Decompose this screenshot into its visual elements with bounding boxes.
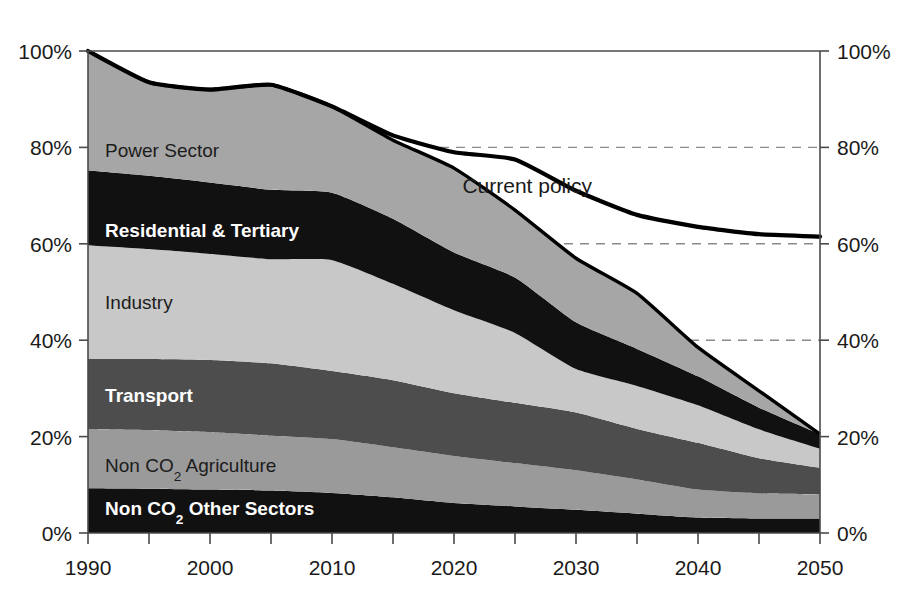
y-axis-label-right-100: 100% bbox=[837, 40, 891, 63]
y-axis-label-left-60: 60% bbox=[30, 233, 72, 256]
y-axis-label-left-20: 20% bbox=[30, 426, 72, 449]
x-axis-label-1990: 1990 bbox=[65, 556, 112, 579]
series-label-residential-tertiary: Residential & Tertiary bbox=[105, 220, 299, 241]
y-axis-label-left-100: 100% bbox=[18, 40, 72, 63]
annotations-group: Current policy bbox=[462, 174, 592, 197]
series-label-transport: Transport bbox=[105, 385, 193, 406]
y-axis-label-right-60: 60% bbox=[837, 233, 879, 256]
y-axis-label-right-80: 80% bbox=[837, 136, 879, 159]
y-axis-label-right-0: 0% bbox=[837, 522, 867, 545]
y-axis-label-left-80: 80% bbox=[30, 136, 72, 159]
annotation-current-policy: Current policy bbox=[462, 174, 592, 197]
series-label-power-sector: Power Sector bbox=[105, 140, 220, 161]
y-axis-label-right-20: 20% bbox=[837, 426, 879, 449]
x-axis-label-2010: 2010 bbox=[309, 556, 356, 579]
x-axis-label-2020: 2020 bbox=[431, 556, 478, 579]
chart-container: 0%0%20%20%40%40%60%60%80%80%100%100%1990… bbox=[0, 0, 914, 605]
x-axis-label-2000: 2000 bbox=[187, 556, 234, 579]
x-axis-label-2030: 2030 bbox=[553, 556, 600, 579]
y-axis-label-left-40: 40% bbox=[30, 329, 72, 352]
x-axis-label-2040: 2040 bbox=[675, 556, 722, 579]
y-axis-label-left-0: 0% bbox=[42, 522, 72, 545]
series-label-industry: Industry bbox=[105, 292, 173, 313]
x-axis-label-2050: 2050 bbox=[797, 556, 844, 579]
stacked-area-chart: 0%0%20%20%40%40%60%60%80%80%100%100%1990… bbox=[0, 0, 914, 605]
y-axis-label-right-40: 40% bbox=[837, 329, 879, 352]
